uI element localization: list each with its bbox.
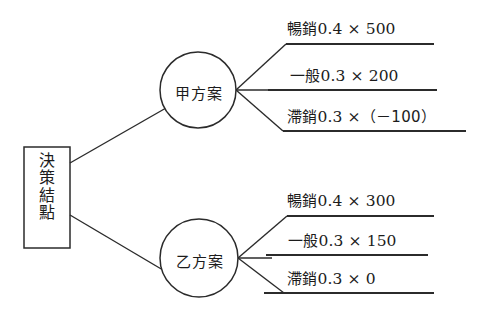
branch-condition-b-average: 一般 xyxy=(288,232,319,250)
branch-condition-b-slow: 滯銷 xyxy=(287,270,318,288)
root-label-char-2: 策 xyxy=(35,169,59,186)
edge-root-to-plan-b xyxy=(70,215,168,273)
decision-tree-canvas xyxy=(0,0,482,325)
branch-condition-a-slow: 滯銷 xyxy=(287,108,318,126)
branch-value-b-slow: 0.3 × 0 xyxy=(318,270,376,288)
branch-line-b-best xyxy=(238,216,287,258)
branch-line-a-best xyxy=(236,44,286,90)
root-decision-node-label: 決 策 結 點 xyxy=(35,152,59,221)
branch-line-a-slow xyxy=(236,90,283,131)
root-label-char-1: 決 xyxy=(35,152,59,169)
branch-value-a-average: 0.3 × 200 xyxy=(321,67,399,85)
branch-label-b-slow: 滯銷0.3 × 0 xyxy=(287,272,376,288)
branch-label-a-average: 一般0.3 × 200 xyxy=(290,69,399,85)
root-label-char-4: 點 xyxy=(35,204,59,221)
chance-node-plan-a-label: 甲方案 xyxy=(175,82,223,103)
branch-value-a-best: 0.4 × 500 xyxy=(318,20,396,38)
branch-condition-a-average: 一般 xyxy=(290,67,321,85)
root-label-char-3: 結 xyxy=(35,187,59,204)
branch-label-a-best: 暢銷0.4 × 500 xyxy=(287,22,396,38)
branch-value-b-average: 0.3 × 150 xyxy=(319,232,397,250)
branch-payoff-a-slow: （－100） xyxy=(361,108,436,126)
chance-node-plan-b-label: 乙方案 xyxy=(176,250,224,271)
branch-line-b-slow xyxy=(238,258,284,293)
branch-condition-b-best: 暢銷 xyxy=(287,192,318,210)
branch-condition-a-best: 暢銷 xyxy=(287,20,318,38)
branch-label-b-average: 一般0.3 × 150 xyxy=(288,234,397,250)
branch-label-b-best: 暢銷0.4 × 300 xyxy=(287,194,396,210)
edge-root-to-plan-a xyxy=(70,108,166,163)
branch-label-a-slow: 滯銷0.3 ×（－100） xyxy=(287,110,436,126)
branch-value-b-best: 0.4 × 300 xyxy=(318,192,396,210)
branch-value-a-slow: 0.3 × xyxy=(318,108,361,126)
